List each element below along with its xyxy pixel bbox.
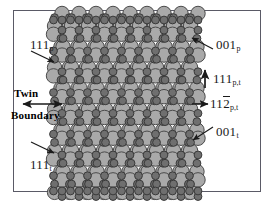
small-atom	[84, 172, 92, 180]
label-112bar-prefix: 11	[210, 96, 223, 111]
small-atom	[126, 16, 134, 24]
small-atom	[170, 55, 178, 63]
small-atom	[126, 151, 134, 159]
small-atom	[127, 76, 135, 84]
small-atom	[84, 47, 92, 55]
label-111t-subscript: t	[49, 164, 51, 173]
small-atom	[50, 16, 58, 24]
small-atom	[85, 97, 93, 105]
small-atom	[169, 187, 177, 195]
label-111t-index: 111	[30, 157, 49, 172]
small-atom	[50, 89, 58, 97]
small-atom	[186, 172, 194, 180]
small-atom	[161, 76, 169, 84]
small-atom	[67, 187, 75, 195]
small-atom	[110, 159, 118, 167]
small-atom	[194, 68, 202, 76]
small-atom	[92, 16, 100, 24]
small-atom	[109, 187, 117, 195]
label-112bar-barred-digit: 2	[223, 97, 230, 110]
small-atom	[160, 26, 168, 34]
small-atom	[67, 16, 75, 24]
small-atom	[75, 68, 83, 76]
small-atom	[68, 55, 76, 63]
small-atom	[109, 68, 117, 76]
label-111pt-index: 111	[213, 71, 232, 86]
small-atom	[177, 16, 185, 24]
small-atom	[194, 16, 202, 24]
small-atom	[152, 16, 160, 24]
atom-lattice	[46, 6, 205, 200]
small-atom	[92, 151, 100, 159]
small-atom	[110, 35, 118, 43]
small-atom	[186, 130, 194, 138]
small-atom	[84, 187, 92, 195]
small-atom	[75, 16, 83, 24]
small-atom	[194, 151, 202, 159]
small-atom	[186, 89, 194, 97]
label-001t: 001t	[216, 125, 239, 140]
small-atom	[101, 16, 109, 24]
small-atom	[143, 68, 151, 76]
label-112bar-subscript: p,t	[230, 103, 238, 112]
small-atom	[177, 68, 185, 76]
small-atom	[67, 47, 75, 55]
small-atom	[152, 130, 160, 138]
small-atom	[75, 151, 83, 159]
small-atom	[152, 172, 160, 180]
small-atom	[102, 97, 110, 105]
small-atom	[160, 68, 168, 76]
small-atom	[109, 26, 117, 34]
small-atom	[143, 109, 151, 117]
label-111pt-subscript: p,t	[232, 78, 240, 87]
small-atom	[118, 89, 126, 97]
small-atom	[84, 16, 92, 24]
small-atom	[127, 118, 135, 126]
small-atom	[58, 16, 66, 24]
small-atom	[67, 130, 75, 138]
small-atom	[75, 109, 83, 117]
small-atom	[177, 109, 185, 117]
small-atom	[152, 89, 160, 97]
small-atom	[58, 151, 66, 159]
small-atom	[153, 139, 161, 147]
small-atom	[153, 97, 161, 105]
small-atom	[143, 151, 151, 159]
small-atom	[92, 187, 100, 195]
small-atom	[101, 130, 109, 138]
label-twin-line2: Boundary	[11, 110, 60, 121]
small-atom	[75, 187, 83, 195]
label-001t-index: 001	[216, 124, 236, 139]
small-atom	[186, 47, 194, 55]
small-atom	[169, 16, 177, 24]
small-atom	[68, 139, 76, 147]
small-atom	[177, 151, 185, 159]
label-111p: 111p	[30, 38, 53, 53]
small-atom	[194, 109, 202, 117]
small-atom	[135, 16, 143, 24]
small-atom	[93, 76, 101, 84]
small-atom	[153, 55, 161, 63]
small-atom	[101, 172, 109, 180]
small-atom	[109, 151, 117, 159]
small-atom	[101, 47, 109, 55]
small-atom	[68, 97, 76, 105]
small-atom	[59, 35, 67, 43]
small-atom	[135, 89, 143, 97]
small-atom	[160, 187, 168, 195]
small-atom	[135, 187, 143, 195]
small-atom	[169, 172, 177, 180]
small-atom	[135, 47, 143, 55]
label-112bar-pt: 112p,t	[210, 97, 238, 112]
small-atom	[118, 16, 126, 24]
figure-root: 111p 111t Twin Boundary 001p 111p,t 112p…	[0, 0, 272, 206]
small-atom	[101, 89, 109, 97]
small-atom	[110, 118, 118, 126]
small-atom	[93, 159, 101, 167]
small-atom	[110, 76, 118, 84]
small-atom	[178, 159, 186, 167]
small-atom	[160, 16, 168, 24]
small-atom	[160, 109, 168, 117]
small-atom	[194, 26, 202, 34]
small-atom	[75, 26, 83, 34]
